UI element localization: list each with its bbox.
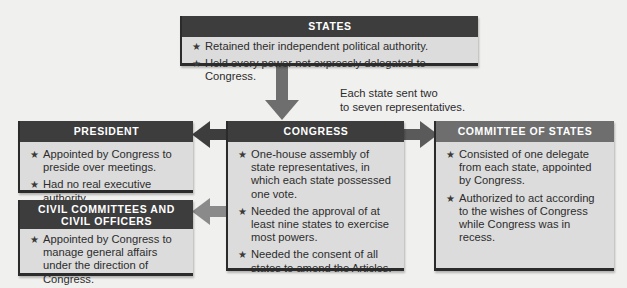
civil-committees-box: CIVIL COMMITTEES AND CIVIL OFFICERS ★App… — [18, 200, 193, 276]
list-item: ★Consisted of one delegate from each sta… — [446, 148, 604, 188]
star-bullet-icon: ★ — [238, 148, 247, 161]
list-item: ★Needed the consent of all states to ame… — [238, 248, 394, 274]
list-item: ★One-house assembly of state representat… — [238, 148, 394, 201]
arrow-congress-to-committee — [398, 120, 438, 150]
list-item: ★Retained their independent political au… — [192, 40, 468, 53]
star-bullet-icon: ★ — [30, 148, 39, 161]
star-bullet-icon: ★ — [446, 148, 455, 161]
star-bullet-icon: ★ — [238, 205, 247, 218]
committee-of-states-list: ★Consisted of one delegate from each sta… — [436, 142, 614, 252]
civil-committees-list: ★Appointed by Congress to manage general… — [20, 229, 193, 288]
states-header: STATES — [182, 16, 478, 37]
list-item: ★Appointed by Congress to manage general… — [30, 233, 183, 286]
president-header: PRESIDENT — [20, 121, 193, 142]
congress-header: CONGRESS — [228, 121, 404, 142]
star-bullet-icon: ★ — [446, 192, 455, 205]
star-bullet-icon: ★ — [30, 233, 39, 246]
president-box: PRESIDENT ★Appointed by Congress to pres… — [18, 121, 193, 193]
star-bullet-icon: ★ — [192, 40, 201, 53]
states-list: ★Retained their independent political au… — [182, 37, 478, 88]
civil-committees-header: CIVIL COMMITTEES AND CIVIL OFFICERS — [20, 200, 193, 229]
committee-of-states-header: COMMITTEE OF STATES — [436, 121, 614, 142]
congress-box: CONGRESS ★One-house assembly of state re… — [226, 121, 404, 271]
states-box: STATES ★Retained their independent polit… — [180, 16, 478, 66]
star-bullet-icon: ★ — [238, 248, 247, 261]
congress-list: ★One-house assembly of state representat… — [228, 142, 404, 283]
star-bullet-icon: ★ — [192, 57, 201, 70]
list-item: ★Appointed by Congress to preside over m… — [30, 148, 183, 174]
list-item: ★Needed the approval of at least nine st… — [238, 205, 394, 245]
list-item: ★Authorized to act according to the wish… — [446, 192, 604, 245]
committee-of-states-box: COMMITTEE OF STATES ★Consisted of one de… — [434, 121, 614, 271]
list-item: ★Held every power not expressly delegate… — [192, 57, 468, 83]
star-bullet-icon: ★ — [30, 178, 39, 191]
representation-note: Each state sent two to seven representat… — [340, 86, 465, 114]
